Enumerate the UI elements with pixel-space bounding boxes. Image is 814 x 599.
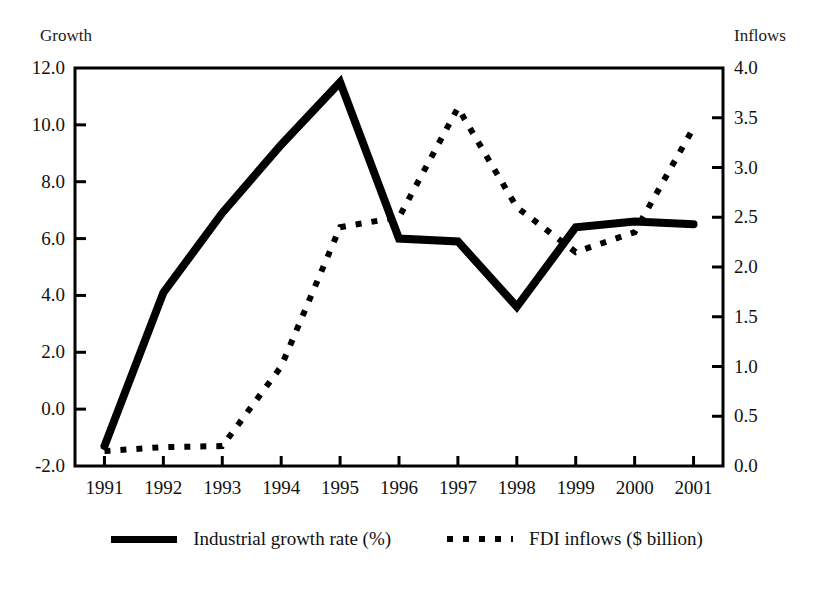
right-tick-label: 4.0: [734, 58, 796, 77]
left-axis-ticks: [75, 125, 86, 409]
plot-frame: [75, 68, 723, 466]
left-axis-title: Growth: [40, 26, 92, 46]
right-tick-label: 2.0: [734, 257, 796, 276]
series-line-fdi: [104, 108, 693, 451]
dotted-line-swatch-icon: [447, 536, 513, 542]
legend-item: FDI inflows ($ billion): [447, 528, 703, 550]
legend-label: FDI inflows ($ billion): [529, 528, 703, 550]
chart-figure: Growth Inflows 12.010.08.06.04.02.00.0-2…: [0, 0, 814, 599]
right-tick-label: 3.0: [734, 158, 796, 177]
x-tick-label: 2001: [659, 478, 729, 497]
left-tick-label: 4.0: [3, 285, 65, 304]
legend-label: Industrial growth rate (%): [193, 528, 391, 550]
legend-item: Industrial growth rate (%): [111, 528, 391, 550]
solid-line-swatch-icon: [111, 536, 177, 543]
plot-area: [0, 0, 814, 599]
chart-legend: Industrial growth rate (%)FDI inflows ($…: [0, 528, 814, 550]
left-tick-label: 2.0: [3, 342, 65, 361]
right-tick-label: 1.5: [734, 307, 796, 326]
right-tick-label: 2.5: [734, 207, 796, 226]
left-tick-label: 8.0: [3, 172, 65, 191]
left-tick-label: 12.0: [3, 58, 65, 77]
right-axis-title: Inflows: [734, 26, 786, 46]
data-series-layer: [104, 82, 693, 451]
right-tick-label: 1.0: [734, 357, 796, 376]
right-tick-label: 3.5: [734, 108, 796, 127]
right-axis-ticks: [712, 118, 723, 417]
left-tick-label: 6.0: [3, 229, 65, 248]
left-tick-label: 0.0: [3, 399, 65, 418]
right-tick-label: 0.5: [734, 406, 796, 425]
series-line-growth: [104, 82, 693, 446]
left-tick-label: -2.0: [3, 456, 65, 475]
right-tick-label: 0.0: [734, 456, 796, 475]
left-tick-label: 10.0: [3, 115, 65, 134]
